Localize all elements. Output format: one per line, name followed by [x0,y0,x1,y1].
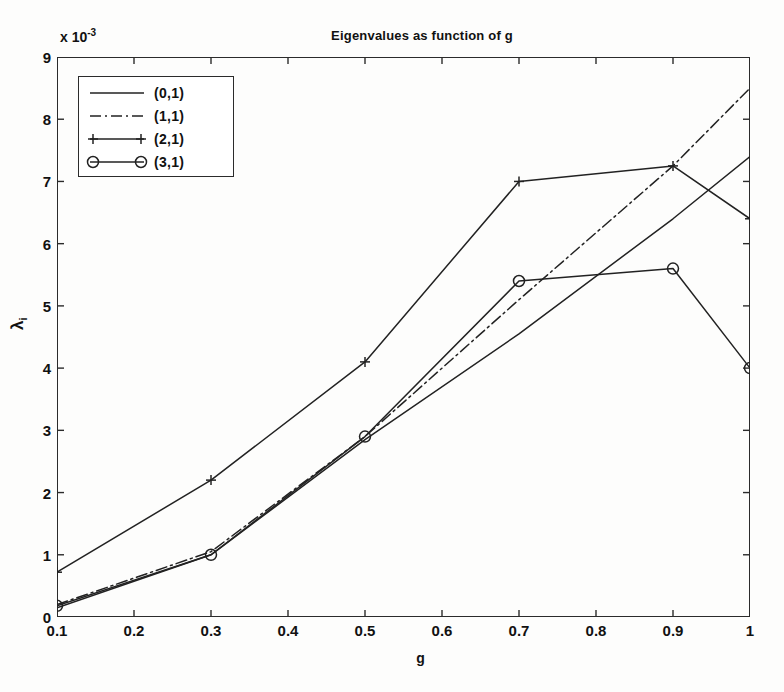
legend-line-sample [86,153,148,171]
legend-label: (1,1) [154,108,184,124]
series-21[interactable] [57,161,750,577]
x-tick-label: 0.6 [432,622,453,639]
chart-figure: Eigenvalues as function of g x 10-3 0123… [0,0,784,692]
x-tick-label: 0.8 [586,622,607,639]
x-tick-label: 0.3 [201,622,222,639]
legend-item[interactable]: (2,1) [79,127,233,150]
x-tick-label: 1 [746,622,754,639]
y-tick-label: 1 [11,546,51,563]
x-tick-label: 0.9 [663,622,684,639]
x-tick-label: 0.4 [278,622,299,639]
x-tick-label: 0.2 [124,622,145,639]
y-axis-tick-labels: 0123456789 [5,0,51,692]
y-tick-label: 6 [11,235,51,252]
x-tick-label: 0.5 [355,622,376,639]
y-axis-label-symbol: λ [8,321,27,330]
x-tick-label: 0.7 [509,622,530,639]
y-axis-exponent-label: x 10-3 [60,27,96,45]
series-31[interactable] [57,263,750,611]
y-tick-label: 3 [11,422,51,439]
legend-item[interactable]: (1,1) [79,104,233,127]
y-axis-exponent-base: x 10 [60,29,87,45]
legend-line-sample [86,130,148,148]
legend-line-sample [86,84,148,102]
y-axis-exponent-power: -3 [87,27,96,38]
y-tick-label: 5 [11,297,51,314]
x-axis-label: g [0,650,784,666]
legend-item[interactable]: (0,1) [79,81,233,104]
y-tick-label: 4 [11,360,51,377]
legend-line-sample [86,107,148,125]
x-tick-label: 0.1 [47,622,68,639]
legend-label: (0,1) [154,85,184,101]
y-tick-label: 2 [11,484,51,501]
series-01[interactable] [57,157,750,608]
y-tick-label: 0 [11,609,51,626]
y-axis-label-subscript: i [17,317,29,320]
y-tick-label: 8 [11,111,51,128]
legend-label: (3,1) [154,154,184,170]
legend-item[interactable]: (3,1) [79,150,233,173]
y-tick-label: 7 [11,173,51,190]
chart-title: Eigenvalues as function of g [0,28,784,43]
legend-label: (2,1) [154,131,184,147]
legend-box: (0,1)(1,1)(2,1)(3,1) [78,76,234,177]
y-axis-label: λi [8,317,29,330]
y-tick-label: 9 [11,49,51,66]
